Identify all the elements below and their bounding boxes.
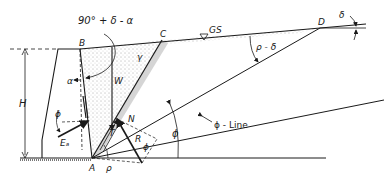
earth-pressure-diagram: 90° + δ - α B C D A ρ N α W γ GS ρ - δ δ… xyxy=(0,0,384,176)
point-C: C xyxy=(160,29,167,39)
label-N: N xyxy=(128,114,135,124)
label-GS: GS xyxy=(209,25,222,35)
label-phi-R: ϕ xyxy=(143,142,149,152)
soil-wedge xyxy=(80,28,320,158)
label-phi-line: ϕ - Line xyxy=(214,120,248,130)
label-alpha: α xyxy=(67,76,73,86)
label-Ea: Eₐ xyxy=(60,138,70,148)
point-B: B xyxy=(79,38,85,48)
label-rho-P: ρ xyxy=(106,163,112,173)
ground-line xyxy=(20,158,326,160)
label-weight: W xyxy=(114,76,124,86)
label-H: H xyxy=(19,98,27,109)
label-rho-minus-delta: ρ - δ xyxy=(256,42,277,52)
ground-surface-line xyxy=(80,24,366,49)
point-D: D xyxy=(318,17,325,27)
label-delta: δ xyxy=(339,10,345,20)
label-phi-angle: ϕ xyxy=(172,128,179,139)
point-A: A xyxy=(88,163,95,173)
label-angle-top: 90° + δ - α xyxy=(78,15,134,26)
label-gamma: γ xyxy=(137,52,143,62)
label-phi-wall: ϕ xyxy=(55,109,61,119)
active-force-vector xyxy=(56,110,88,137)
height-dimension xyxy=(10,49,58,158)
label-R: R xyxy=(135,134,141,144)
